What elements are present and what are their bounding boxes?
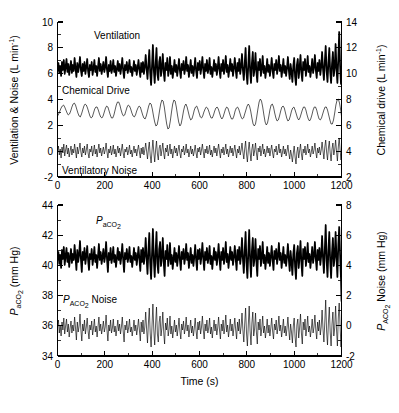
label-ventilatory-noise: Ventilatory Noise	[62, 165, 137, 176]
figure-svg: 10 8 6 4 2 0 -2	[0, 0, 399, 413]
bottom-left-ticks	[58, 205, 64, 356]
panel-top: 10 8 6 4 2 0 -2	[8, 17, 387, 192]
label-ventilation: Ventilation	[94, 30, 140, 41]
label-chemical-drive: Chemical Drive	[62, 85, 130, 96]
svg-text:10: 10	[42, 17, 54, 28]
svg-text:1200: 1200	[330, 359, 353, 370]
x-axis-title: Time (s)	[180, 375, 218, 387]
svg-text:6: 6	[346, 230, 352, 241]
bottom-left-axis-title: PaCO2 (mm Hg)	[8, 246, 24, 315]
svg-text:400: 400	[144, 180, 161, 191]
label-paco2-noise: PACO2 Noise	[63, 294, 118, 309]
svg-text:1000: 1000	[283, 180, 306, 191]
svg-text:42: 42	[42, 230, 54, 241]
panel-bottom: 44 42 40 38 36 34 8	[8, 200, 391, 388]
svg-text:1200: 1200	[330, 180, 353, 191]
svg-text:2: 2	[346, 290, 352, 301]
top-right-tick-labels: 14 12 10 8 6 4 2	[346, 17, 358, 183]
svg-text:38: 38	[42, 290, 54, 301]
bottom-x-ticks	[58, 351, 342, 357]
svg-text:36: 36	[42, 320, 54, 331]
top-left-axis-title: Ventilation & Noise (L min-1)	[8, 35, 20, 165]
svg-text:800: 800	[238, 180, 255, 191]
svg-text:4: 4	[346, 260, 352, 271]
bottom-right-axis-title: PACO2 Noise (mm Hg)	[375, 231, 391, 331]
svg-text:600: 600	[191, 180, 208, 191]
svg-text:0: 0	[47, 146, 53, 157]
bottom-x-tick-labels: 0 200 400 600 800 1000 1200	[55, 359, 353, 370]
svg-text:200: 200	[96, 180, 113, 191]
svg-text:40: 40	[42, 260, 54, 271]
trace-chemical-drive	[58, 99, 342, 129]
scientific-figure: 10 8 6 4 2 0 -2	[0, 0, 399, 413]
top-x-tick-labels: 0 200 400 600 800 1000 1200	[55, 180, 353, 191]
svg-text:14: 14	[346, 17, 358, 28]
trace-paco2	[58, 225, 342, 301]
svg-text:-2: -2	[44, 172, 53, 183]
bottom-left-tick-labels: 44 42 40 38 36 34	[42, 200, 54, 362]
svg-text:4: 4	[346, 146, 352, 157]
top-left-tick-labels: 10 8 6 4 2 0 -2	[42, 17, 54, 183]
svg-text:12: 12	[346, 42, 358, 53]
svg-text:2: 2	[47, 120, 53, 131]
bottom-right-tick-labels: 8 6 4 2 0 -2	[346, 200, 355, 362]
svg-text:10: 10	[346, 68, 358, 79]
svg-text:8: 8	[47, 42, 53, 53]
trace-ventilatory-noise	[58, 138, 342, 164]
svg-text:8: 8	[346, 94, 352, 105]
trace-paco2-noise	[58, 300, 342, 347]
label-paco2: PaCO2	[96, 215, 121, 230]
svg-text:400: 400	[144, 359, 161, 370]
top-left-ticks	[58, 22, 64, 177]
svg-text:600: 600	[191, 359, 208, 370]
svg-text:6: 6	[346, 120, 352, 131]
svg-text:34: 34	[42, 351, 54, 362]
svg-text:0: 0	[55, 180, 61, 191]
top-right-axis-title: Chemical drive (L min-1)	[375, 45, 387, 156]
svg-text:0: 0	[346, 320, 352, 331]
svg-text:800: 800	[238, 359, 255, 370]
svg-text:6: 6	[47, 68, 53, 79]
svg-text:44: 44	[42, 200, 54, 211]
svg-text:0: 0	[55, 359, 61, 370]
svg-text:8: 8	[346, 200, 352, 211]
svg-text:1000: 1000	[283, 359, 306, 370]
svg-text:4: 4	[47, 94, 53, 105]
svg-text:200: 200	[96, 359, 113, 370]
